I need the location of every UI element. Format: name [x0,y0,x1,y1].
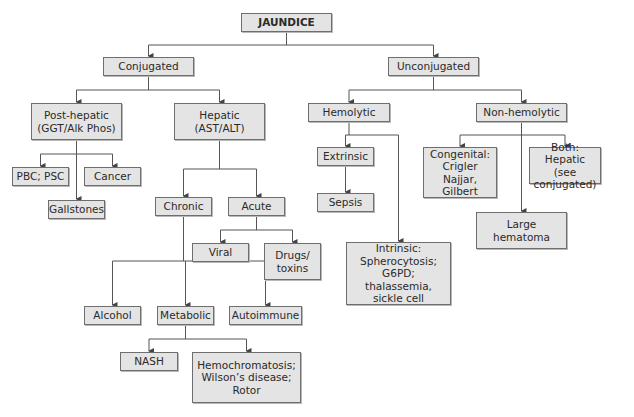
node-hemolytic: Hemolytic [308,103,390,122]
node-acute: Acute [228,197,285,216]
node-metabolic: Metabolic [157,306,214,325]
node-hepatic: Hepatic (AST/ALT) [174,103,265,140]
node-jaundice: JAUNDICE [241,13,332,32]
node-congenital: Congenital: Crigler Najjar, Gilbert [423,147,497,198]
node-autoimmune: Autoimmune [229,306,302,325]
node-nash: NASH [120,352,178,371]
node-sepsis: Sepsis [317,193,374,212]
node-drugs-toxins: Drugs/ toxins [264,243,321,280]
node-hemochromatosis: Hemochromatosis; Wilson’s disease; Rotor [192,352,301,403]
node-viral: Viral [192,243,249,262]
node-conjugated: Conjugated [103,57,194,76]
node-chronic: Chronic [155,197,212,216]
node-alcohol: Alcohol [84,306,141,325]
node-cancer: Cancer [84,167,141,186]
node-large-hematoma: Large hematoma [476,212,567,249]
node-both-hepatic: Both: Hepatic (see conjugated) [529,147,601,184]
node-non-hemolytic: Non-hemolytic [476,103,567,122]
node-extrinsic: Extrinsic [317,147,374,166]
node-pbc-psc: PBC; PSC [12,167,69,186]
jaundice-flowchart: JAUNDICEConjugatedUnconjugatedPost-hepat… [0,0,634,417]
node-gallstones: Gallstones [48,200,105,219]
node-unconjugated: Unconjugated [388,57,479,76]
node-intrinsic: Intrinsic: Spherocytosis; G6PD; thalasse… [346,242,451,305]
node-post-hepatic: Post-hepatic (GGT/Alk Phos) [31,103,122,140]
